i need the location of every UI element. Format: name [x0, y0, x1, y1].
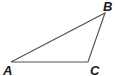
triangle-abc	[11, 13, 105, 62]
vertex-label-a: A	[2, 63, 12, 76]
vertex-label-c: C	[90, 63, 100, 76]
triangle-diagram: A B C	[0, 0, 118, 76]
vertex-label-b: B	[103, 0, 112, 14]
